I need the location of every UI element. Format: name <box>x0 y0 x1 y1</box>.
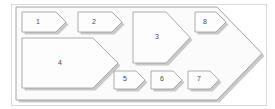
shape-6-label: 6 <box>160 75 164 82</box>
chevron-process-diagram: 12384567 <box>0 0 275 109</box>
shape-4-label: 4 <box>58 59 62 66</box>
shape-8-label: 8 <box>203 18 207 25</box>
shape-1-body[interactable] <box>22 12 66 32</box>
shape-5-label: 5 <box>123 75 127 82</box>
shape-2-body[interactable] <box>78 12 122 32</box>
shape-7-label: 7 <box>197 75 201 82</box>
diagram-canvas: 12384567 <box>0 0 275 109</box>
shape-3-label: 3 <box>155 33 159 40</box>
shape-1-label: 1 <box>36 18 40 25</box>
shape-2-label: 2 <box>92 18 96 25</box>
